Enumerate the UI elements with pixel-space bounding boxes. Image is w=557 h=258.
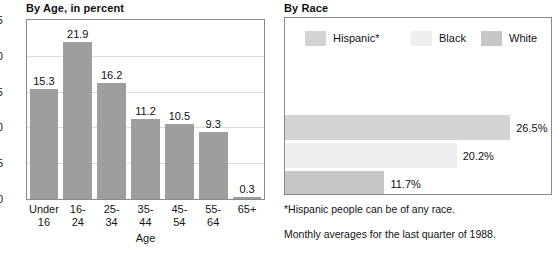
y-tick-20: 20 (0, 50, 3, 62)
race-plot-area: Hispanic*BlackWhite 26.5%20.2%11.7% (284, 17, 552, 195)
race-bar-value: 26.5% (516, 122, 547, 134)
race-bar (285, 143, 457, 168)
race-legend: Hispanic*BlackWhite (285, 29, 551, 51)
race-bar-value: 20.2% (463, 150, 494, 162)
age-bar (97, 83, 126, 199)
race-footnote-period: Monthly averages for the last quarter of… (284, 228, 496, 240)
age-bar (233, 197, 262, 199)
race-bar-row: 20.2% (285, 143, 551, 168)
age-bar-value: 0.3 (221, 183, 274, 195)
legend-item-1[interactable]: Black (411, 29, 466, 47)
age-bars-layer: 15.321.916.211.210.59.30.3 (27, 20, 264, 199)
legend-swatch-icon (481, 31, 502, 46)
legend-item-0[interactable]: Hispanic* (305, 29, 379, 47)
y-tick-25: 25 (0, 14, 3, 26)
y-tick-15: 15 (0, 86, 3, 98)
bar-slot: 15.3 (30, 20, 59, 199)
bar-slot: 0.3 (233, 20, 262, 199)
y-tick-5: 5 (0, 157, 3, 169)
age-chart-panel: By Age, in percent 0510152025 15.321.916… (0, 0, 272, 258)
legend-swatch-icon (305, 31, 326, 46)
bar-slot: 9.3 (199, 20, 228, 199)
age-chart-title: By Age, in percent (26, 2, 124, 14)
race-chart-panel: By Race Hispanic*BlackWhite 26.5%20.2%11… (272, 0, 557, 258)
race-bar (285, 171, 384, 195)
legend-item-2[interactable]: White (481, 29, 537, 47)
race-chart-title: By Race (284, 2, 328, 14)
race-bar-row: 26.5% (285, 115, 551, 140)
x-tick-6: 65+ (226, 203, 268, 216)
y-tick-0: 0 (0, 193, 3, 205)
race-footnote-hispanic: *Hispanic people can be of any race. (284, 203, 455, 215)
bar-slot: 21.9 (63, 20, 92, 199)
legend-label: Hispanic* (333, 32, 379, 44)
race-bar-row: 11.7% (285, 171, 551, 195)
y-tick-10: 10 (0, 121, 3, 133)
bar-slot: 10.5 (165, 20, 194, 199)
legend-label: White (509, 32, 537, 44)
age-bar (30, 89, 59, 199)
age-bar (63, 42, 92, 199)
race-bar (285, 115, 510, 140)
age-bar (165, 124, 194, 199)
legend-swatch-icon (411, 31, 432, 46)
age-bar (131, 119, 160, 199)
legend-label: Black (439, 32, 466, 44)
race-bar-value: 11.7% (390, 178, 420, 190)
age-x-axis-label: Age (26, 232, 265, 244)
